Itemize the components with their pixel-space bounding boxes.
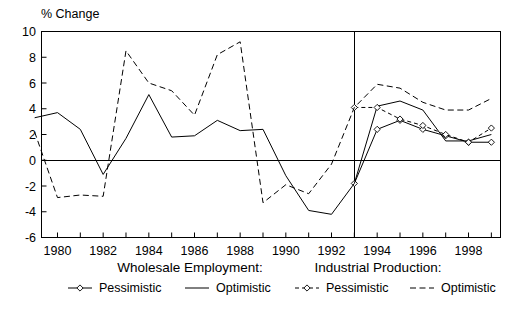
x-tick-label: 1994 [363, 244, 391, 258]
y-tick-label: 10 [22, 25, 36, 39]
x-tick-label: 1988 [226, 244, 254, 258]
data-point-marker [488, 139, 494, 145]
legend-sample-marker [77, 285, 83, 291]
x-tick-label: 1996 [409, 244, 437, 258]
plot-frame [42, 32, 501, 238]
x-tick-label: 1990 [272, 244, 300, 258]
y-tick-label: -2 [25, 180, 36, 194]
y-tick-label: 6 [29, 77, 36, 91]
y-tick-label: -4 [25, 205, 36, 219]
y-axis-label: % Change [41, 7, 99, 21]
x-tick-label: 1998 [455, 244, 483, 258]
chart-legend: Wholesale Employment:PessimisticOptimist… [68, 260, 496, 295]
x-tick-label: 1984 [135, 244, 163, 258]
data-point-marker [420, 122, 426, 128]
legend-group-heading: Industrial Production: [315, 260, 442, 275]
y-tick-label: 0 [29, 154, 36, 168]
legend-item[interactable]: Pessimistic [68, 281, 162, 295]
x-tick-label: 1986 [181, 244, 209, 258]
y-tick-label: 4 [29, 102, 36, 116]
series-layer [35, 42, 495, 215]
x-axis-tick-labels: 1980198219841986198819901992199419961998 [44, 244, 483, 258]
x-tick-label: 1992 [318, 244, 346, 258]
y-axis-tick-labels: -6-4-20246810 [22, 25, 36, 245]
chart-container: % Change -6-4-20246810 19801982198419861… [0, 0, 513, 311]
x-tick-label: 1980 [44, 244, 72, 258]
legend-item-label: Pessimistic [99, 281, 162, 295]
data-point-marker [488, 125, 494, 131]
legend-item-label: Optimistic [441, 281, 496, 295]
legend-item-label: Pessimistic [326, 281, 389, 295]
legend-item[interactable]: Optimistic [185, 281, 271, 295]
legend-item-label: Optimistic [216, 281, 271, 295]
y-tick-label: -6 [25, 231, 36, 245]
legend-sample-marker [304, 285, 310, 291]
legend-item[interactable]: Pessimistic [295, 281, 389, 295]
y-axis-tick-marks [42, 32, 47, 238]
legend-group-heading: Wholesale Employment: [117, 260, 263, 275]
x-tick-label: 1982 [89, 244, 117, 258]
data-point-marker [374, 126, 380, 132]
economic-forecast-line-chart: % Change -6-4-20246810 19801982198419861… [0, 0, 513, 311]
y-tick-label: 2 [29, 128, 36, 142]
y-tick-label: 8 [29, 51, 36, 65]
legend-item[interactable]: Optimistic [410, 281, 496, 295]
x-axis-tick-marks [57, 233, 491, 238]
